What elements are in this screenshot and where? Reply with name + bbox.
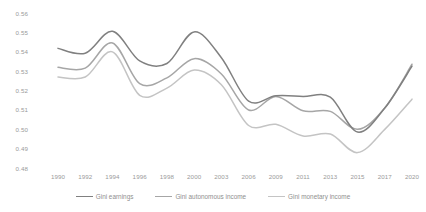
chart-legend: Gini earningsGini autonomous incomeGini …: [0, 193, 426, 200]
legend-line-icon: [76, 196, 93, 198]
series-line: [58, 52, 412, 153]
legend-item[interactable]: Gini monetary income: [268, 193, 350, 200]
legend-item[interactable]: Gini earnings: [76, 193, 134, 200]
legend-item[interactable]: Gini autonomous income: [155, 193, 246, 200]
legend-line-icon: [268, 196, 285, 198]
plot-area: [0, 0, 426, 212]
legend-label: Gini autonomous income: [175, 193, 246, 200]
series-line: [58, 43, 412, 130]
gini-line-chart: 0.560.550.540.530.520.510.500.490.48 199…: [0, 0, 426, 212]
series-line: [58, 31, 412, 132]
legend-label: Gini earnings: [96, 193, 134, 200]
legend-line-icon: [155, 196, 172, 198]
legend-label: Gini monetary income: [288, 193, 350, 200]
